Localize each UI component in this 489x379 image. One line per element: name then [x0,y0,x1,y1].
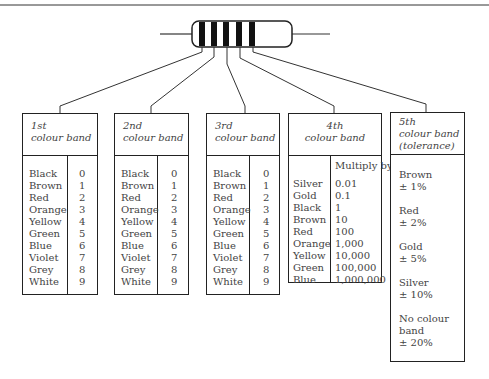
band-1-title: colour band [31,132,97,144]
band-2-table: 2nd colour band BlackBrownRedOrangeYello… [114,113,189,295]
band-4-multipliers: 0.010.11101001,00010,000100,0001,000,000 [335,178,386,286]
band-5-table: 5th colour band (tolerance) Brown± 1% Re… [390,112,465,362]
band-3-values: 0123456789 [263,168,269,288]
band-4-ordinal: 4th [289,120,381,132]
band-5-header: 5th colour band (tolerance) [391,113,464,155]
band-2 [211,22,217,46]
band-1-ordinal: 1st [31,120,97,132]
band-3-colours: BlackBrownRedOrangeYellowGreenBlueViolet… [213,168,251,288]
band-4-title: colour band [289,132,381,144]
band-1-table: 1st colour band BlackBrownRedOrangeYello… [22,113,98,295]
band-5-subtitle: (tolerance) [399,140,464,152]
band-4-colours: SilverGoldBlackBrownRedOrangeYellowGreen… [293,178,331,286]
band-5-ordinal: 5th [399,116,464,128]
band-5 [249,22,255,46]
band-2-ordinal: 2nd [123,120,188,132]
band-3 [223,22,229,46]
band-1-colours: BlackBrownRedOrangeYellowGreenBlueViolet… [29,168,67,288]
band-3-ordinal: 3rd [215,120,279,132]
band-1-values: 0123456789 [79,168,85,288]
band-2-values: 0123456789 [171,168,177,288]
band-3-title: colour band [215,132,279,144]
band-2-title: colour band [123,132,188,144]
band-1 [199,22,205,46]
band-5-title: colour band [399,128,464,140]
band-2-header: 2nd colour band [115,114,188,156]
band-4-table: 4th colour band Multiply by SilverGoldBl… [288,113,382,283]
band-1-header: 1st colour band [23,114,97,156]
band-4-multiplier-header: Multiply by [335,160,393,172]
band-3-header: 3rd colour band [207,114,279,156]
band-4-header: 4th colour band [289,114,381,156]
band-5-tolerances: Brown± 1% Red± 2% Gold± 5% Silver± 10% N… [399,169,464,361]
band-4 [236,22,242,46]
band-3-table: 3rd colour band BlackBrownRedOrangeYello… [206,113,280,295]
band-2-colours: BlackBrownRedOrangeYellowGreenBlueViolet… [121,168,159,288]
